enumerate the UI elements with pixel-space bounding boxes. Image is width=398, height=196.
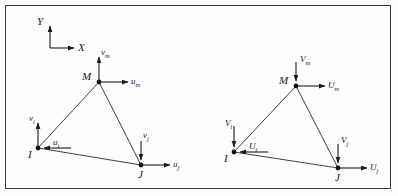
right-element-triangle [232,84,341,171]
edge-m-j [296,86,338,168]
axis-indicator [50,26,74,48]
left-vector-label-vi: vi [29,114,35,125]
left-node-label-i: I [28,149,32,160]
edge-m-j [99,82,141,165]
left-vector-label-vj: vj [143,131,149,142]
left-node-label-m: M [82,71,91,82]
left-vector-label-um: um [131,77,140,88]
edge-i-m [234,86,296,152]
diagram-vectors [0,0,398,196]
left-vector-label-vm: vm [101,48,110,59]
right-vector-label-vj: Vj [341,136,348,147]
edge-i-m [38,82,99,148]
edge-i-j [234,152,338,168]
left-vector-label-ui: ui [53,138,59,149]
right-node-label-i: I [224,153,228,164]
right-vector-label-um: Um [328,81,339,92]
right-vector-label-ui: Ui [249,142,257,153]
edge-i-j [38,148,141,165]
node-dot-i [232,150,237,155]
left-vector-label-uj: uj [173,160,179,171]
left-element-triangle [36,80,144,168]
figure-canvas: Y X I J M vm um vi ui vj uj I J M Vm Um … [0,0,398,196]
left-node-label-j: J [138,169,143,180]
right-vector-label-vm: Vm [300,55,310,66]
right-node-label-m: M [279,75,288,86]
right-vector-label-uj: Uj [370,163,378,174]
axis-label-y: Y [37,16,43,27]
axis-label-x: X [78,42,85,53]
right-node-label-j: J [335,172,340,183]
right-vector-label-vi: Vi [225,119,232,130]
